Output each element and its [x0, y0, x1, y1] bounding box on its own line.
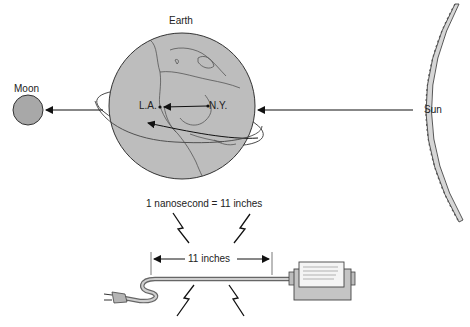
la-marker: [158, 105, 161, 108]
plug-icon: [112, 292, 127, 303]
lightning-icon: [229, 285, 244, 316]
ny-label: N.Y.: [209, 101, 227, 111]
lightning-icon: [177, 285, 194, 316]
power-cord: [104, 279, 292, 303]
diagram-canvas: Earth Moon Sun L.A. N.Y. 1 nanosecond = …: [0, 0, 470, 327]
earth-label: Earth: [169, 16, 193, 26]
moon-label: Moon: [14, 84, 39, 94]
earth-globe: [109, 33, 258, 184]
equation-caption: 1 nanosecond = 11 inches: [146, 199, 262, 209]
length-label: 11 inches: [188, 254, 230, 264]
moon-circle: [13, 95, 43, 125]
device-label-panel: [299, 262, 344, 287]
lightning-icon: [173, 213, 189, 243]
la-label: L.A.: [139, 101, 157, 111]
device-box: [289, 262, 355, 300]
lightning-bolts: [173, 213, 250, 316]
lightning-icon: [234, 214, 250, 243]
diagram-graphics: [0, 0, 470, 327]
sun-label: Sun: [424, 105, 442, 115]
